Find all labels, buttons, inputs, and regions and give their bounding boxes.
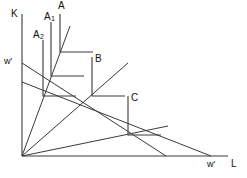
x-axis-wage-label: w′: [207, 160, 215, 169]
x-axis-label-L: L: [231, 159, 237, 169]
isoquants-group: [43, 14, 161, 135]
y-axis-wage-label: w′: [4, 57, 12, 66]
isoquant-label-A1-subscript: 1: [51, 15, 55, 22]
isoquant-A1: [51, 22, 84, 76]
isoquant-label-A2-base: A: [33, 29, 40, 40]
isocost-line-lower: [22, 82, 211, 156]
isoquant-label-A1-base: A: [44, 11, 51, 22]
isocost-lines-group: [22, 63, 211, 156]
y-axis-label-K: K: [11, 9, 18, 19]
diagram-canvas: [0, 0, 247, 178]
ray-mid-B: [22, 63, 128, 156]
isoquant-label-A2-subscript: 2: [40, 33, 44, 40]
isoquant-label-A: A: [58, 1, 65, 11]
isoquant-label-A1: A1: [44, 12, 55, 22]
isoquant-label-B: B: [95, 54, 102, 64]
isoquant-label-C: C: [131, 93, 138, 103]
isoquant-isocost-figure: K L w′ w′ A A1 A2 B C: [0, 0, 247, 178]
isoquant-A: [60, 14, 93, 52]
isoquant-label-A2: A2: [33, 30, 44, 40]
isocost-line-upper: [22, 63, 166, 156]
